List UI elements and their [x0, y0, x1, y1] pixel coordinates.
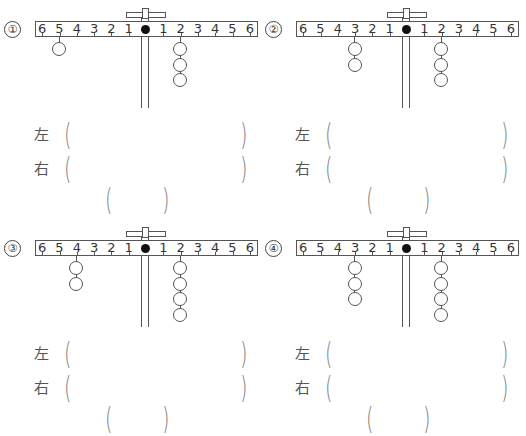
scale-tick: [163, 252, 164, 255]
answer-right-field[interactable]: [75, 156, 235, 182]
problem-number: ①: [4, 21, 21, 38]
scale-tick: [198, 252, 199, 255]
scale-tick: [390, 252, 391, 255]
scale-tick: [442, 33, 443, 36]
answer-result-open-paren: (: [105, 404, 112, 434]
scale-tick: [303, 33, 304, 36]
weight-right: [173, 292, 187, 306]
weight-right: [173, 277, 187, 291]
weight-right: [434, 73, 448, 87]
answer-right-open-paren: (: [64, 373, 71, 403]
scale-tick: [494, 33, 495, 36]
stand-top: [142, 8, 149, 19]
scale-tick: [355, 252, 356, 255]
scale-tick: [181, 33, 182, 36]
scale-tick: [355, 33, 356, 36]
answer-left-close-paren: ): [240, 339, 247, 369]
pivot-dot: [141, 25, 150, 34]
answer-result-close-paren: ): [162, 185, 169, 215]
label-left: 左: [295, 123, 310, 144]
answer-left-field[interactable]: [336, 341, 496, 367]
label-right: 右: [34, 376, 49, 397]
answer-result-close-paren: ): [162, 404, 169, 434]
answer-right-close-paren: ): [501, 154, 508, 184]
scale-tick: [215, 252, 216, 255]
answer-result-close-paren: ): [423, 404, 430, 434]
scale-tick: [459, 33, 460, 36]
scale-tick: [129, 252, 130, 255]
answer-result-field[interactable]: [376, 406, 421, 432]
scale-tick: [424, 252, 425, 255]
answer-result-field[interactable]: [376, 187, 421, 213]
problem-panel-4: ④615243342516左()右()(): [261, 219, 524, 434]
weight-left: [348, 58, 362, 72]
weight-right: [434, 261, 448, 275]
answer-result-open-paren: (: [105, 185, 112, 215]
weight-right: [173, 261, 187, 275]
scale-tick: [94, 252, 95, 255]
weight-right: [434, 277, 448, 291]
scale-tick: [303, 252, 304, 255]
problem-number: ③: [4, 240, 21, 257]
answer-left-close-paren: ): [501, 339, 508, 369]
weight-left: [348, 261, 362, 275]
answer-left-field[interactable]: [75, 122, 235, 148]
weight-left: [69, 261, 83, 275]
weight-right: [434, 42, 448, 56]
scale-tick: [372, 33, 373, 36]
answer-left-open-paren: (: [325, 120, 332, 150]
scale-tick: [198, 33, 199, 36]
weight-right: [173, 308, 187, 322]
scale-tick: [94, 33, 95, 36]
scale-tick: [111, 252, 112, 255]
weight-right: [434, 58, 448, 72]
problem-panel-1: ①615243342516左()右()(): [0, 0, 263, 215]
scale-tick: [338, 252, 339, 255]
answer-result-open-paren: (: [366, 404, 373, 434]
answer-right-close-paren: ): [501, 373, 508, 403]
answer-right-open-paren: (: [325, 373, 332, 403]
answer-right-field[interactable]: [336, 375, 496, 401]
scale-tick: [372, 252, 373, 255]
answer-left-field[interactable]: [75, 341, 235, 367]
label-right: 右: [295, 376, 310, 397]
answer-right-open-paren: (: [325, 154, 332, 184]
pivot-dot: [141, 244, 150, 253]
scale-tick: [459, 252, 460, 255]
label-left: 左: [295, 342, 310, 363]
answer-right-field[interactable]: [336, 156, 496, 182]
weight-left: [69, 277, 83, 291]
answer-right-close-paren: ): [240, 154, 247, 184]
answer-result-field[interactable]: [115, 187, 160, 213]
answer-left-field[interactable]: [336, 122, 496, 148]
answer-right-field[interactable]: [75, 375, 235, 401]
answer-left-open-paren: (: [325, 339, 332, 369]
scale-tick: [476, 33, 477, 36]
scale-tick: [338, 33, 339, 36]
problem-number: ②: [265, 21, 282, 38]
problem-panel-2: ②615243342516左()右()(): [261, 0, 524, 215]
problem-panel-3: ③615243342516左()右()(): [0, 219, 263, 434]
weight-left: [348, 277, 362, 291]
label-left: 左: [34, 342, 49, 363]
scale-tick: [321, 252, 322, 255]
pivot-dot: [402, 25, 411, 34]
problem-number: ④: [265, 240, 282, 257]
weight-right: [434, 292, 448, 306]
label-left: 左: [34, 123, 49, 144]
answer-result-field[interactable]: [115, 406, 160, 432]
scale-tick: [511, 252, 512, 255]
label-right: 右: [34, 157, 49, 178]
weight-left: [348, 42, 362, 56]
scale-tick: [129, 33, 130, 36]
scale-tick: [511, 33, 512, 36]
weight-right: [173, 42, 187, 56]
scale-tick: [250, 33, 251, 36]
answer-left-close-paren: ): [501, 120, 508, 150]
weight-right: [173, 73, 187, 87]
scale-tick: [42, 252, 43, 255]
scale-tick: [390, 33, 391, 36]
pivot-dot: [402, 244, 411, 253]
weight-left: [348, 292, 362, 306]
scale-tick: [163, 33, 164, 36]
